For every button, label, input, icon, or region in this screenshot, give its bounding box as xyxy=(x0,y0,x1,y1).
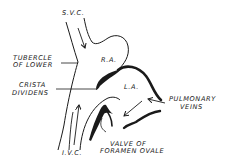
la-flow-arrow xyxy=(124,101,142,116)
crista-dividens-shape xyxy=(96,68,122,90)
label-pulmonary-line2: VEINS xyxy=(180,103,203,111)
pulmonary-vein-lower-wall xyxy=(124,111,160,128)
fetal-heart-diagram: S.V.C. TUBERCLE OF LOWER R.A. CRISTA DIV… xyxy=(0,0,237,166)
svc-flow-arrow xyxy=(78,28,85,48)
ivc-inner-wall xyxy=(69,112,73,150)
valve-leader-line xyxy=(101,118,106,132)
label-right-atrium: R.A. xyxy=(101,56,117,64)
pulmonary-veins-arrow xyxy=(148,99,165,103)
label-pulmonary-line1: PULMONARY xyxy=(169,95,216,103)
label-valve-line2: FORAMEN OVALE xyxy=(100,147,165,155)
ivc-flow-arrow xyxy=(74,105,79,145)
label-ivc: I.V.C. xyxy=(62,149,82,157)
label-tubercle-line2: OF LOWER xyxy=(13,61,53,69)
label-svc: S.V.C. xyxy=(62,9,84,17)
svc-left-wall xyxy=(58,22,78,150)
label-crista-line1: CRISTA xyxy=(19,81,46,89)
label-left-atrium: L.A. xyxy=(124,83,139,91)
label-crista-line2: DIVIDENS xyxy=(12,89,49,97)
